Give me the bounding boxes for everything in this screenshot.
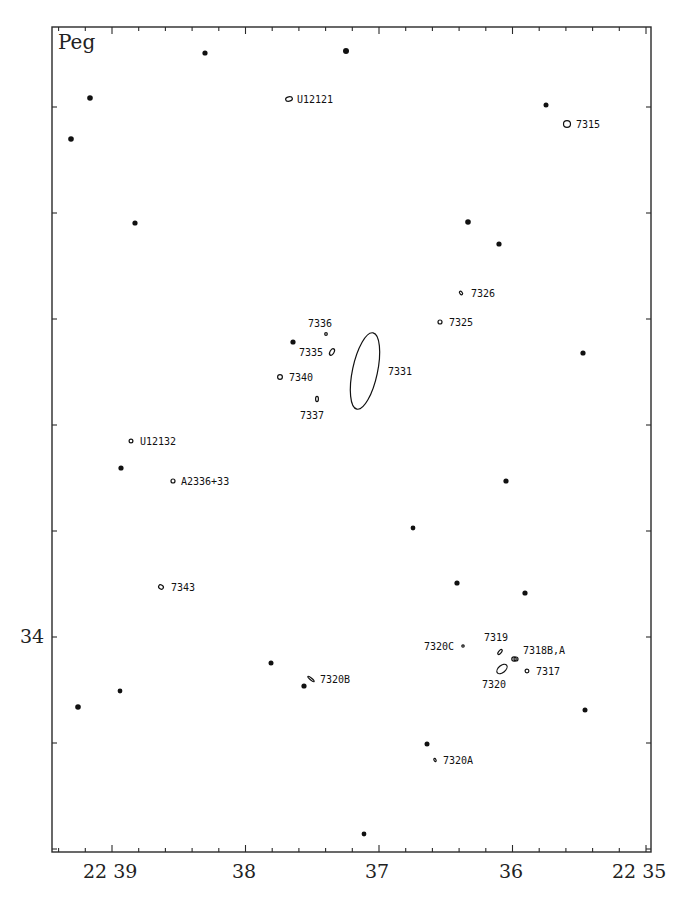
star-dot — [132, 220, 137, 225]
galaxies-layer: U1212173157326732573367335733173407337U1… — [129, 94, 600, 766]
galaxy-label: 7343 — [171, 582, 195, 593]
star-dot — [583, 708, 588, 713]
star-dot — [202, 50, 207, 55]
star-dot — [269, 661, 274, 666]
star-dot — [68, 136, 74, 142]
galaxy-ellipse — [345, 330, 386, 411]
galaxy-label: 7331 — [388, 366, 412, 377]
galaxy-ellipse — [495, 662, 509, 675]
star-dot — [454, 580, 459, 585]
galaxy-ellipse — [171, 479, 175, 483]
sky-chart: U1212173157326732573367335733173407337U1… — [0, 0, 687, 911]
star-dot — [290, 339, 295, 344]
galaxy-ellipse — [316, 396, 319, 401]
star-dot — [75, 704, 81, 710]
galaxy-ellipse — [564, 121, 571, 128]
star-dot — [87, 95, 93, 101]
galaxy-label: 7319 — [484, 632, 508, 643]
galaxy-ellipse — [525, 669, 529, 673]
galaxy-ellipse — [285, 96, 292, 102]
y-tick-label-34: 34 — [20, 625, 44, 647]
galaxy-label: 7320C — [424, 641, 454, 652]
star-dot — [522, 590, 527, 595]
galaxy-label: 7335 — [299, 347, 323, 358]
star-dot — [496, 241, 501, 246]
galaxy-label: 7336 — [308, 318, 332, 329]
galaxy-label: U12121 — [297, 94, 333, 105]
galaxy-ellipse — [158, 584, 164, 590]
galaxy-label: U12132 — [140, 436, 176, 447]
galaxy-label: 7318B,A — [523, 645, 565, 656]
galaxy-label: 7320A — [443, 755, 473, 766]
x-tick-label-22-35: 22 35 — [612, 860, 666, 882]
galaxy-label: 7315 — [576, 119, 600, 130]
x-tick-label-22-39: 22 39 — [83, 860, 137, 882]
galaxy-ellipse — [278, 375, 283, 380]
star-dot — [465, 219, 471, 225]
galaxy-label: 7320 — [482, 679, 506, 690]
x-tick-label-37: 37 — [365, 860, 389, 882]
galaxy-label: 7326 — [471, 288, 495, 299]
galaxy-ellipse — [462, 645, 464, 647]
galaxy-ellipse — [497, 649, 503, 655]
galaxy-ellipse — [328, 348, 335, 356]
star-dot — [580, 350, 585, 355]
galaxy-ellipse — [438, 320, 442, 324]
star-dot — [343, 48, 349, 54]
star-dot — [503, 478, 508, 483]
galaxy-ellipse — [129, 439, 133, 443]
galaxy-ellipse — [325, 333, 328, 336]
star-dot — [362, 832, 367, 837]
galaxy-ellipse — [307, 676, 314, 683]
star-dot — [118, 689, 123, 694]
galaxy-label: A2336+33 — [181, 476, 229, 487]
galaxy-label: 7317 — [536, 666, 560, 677]
galaxy-label: 7325 — [449, 317, 473, 328]
star-dot — [118, 465, 123, 470]
galaxy-label: 7340 — [289, 372, 313, 383]
constellation-label: Peg — [58, 30, 95, 54]
galaxy-label: 7320B — [320, 674, 350, 685]
star-dot — [425, 742, 430, 747]
galaxy-ellipse — [433, 758, 436, 762]
star-dot — [301, 683, 306, 688]
galaxy-label: 7337 — [300, 410, 324, 421]
x-tick-label-36: 36 — [499, 860, 523, 882]
star-dot — [544, 103, 549, 108]
galaxy-ellipse — [459, 291, 463, 296]
x-tick-label-38: 38 — [232, 860, 256, 882]
star-dot — [411, 526, 416, 531]
